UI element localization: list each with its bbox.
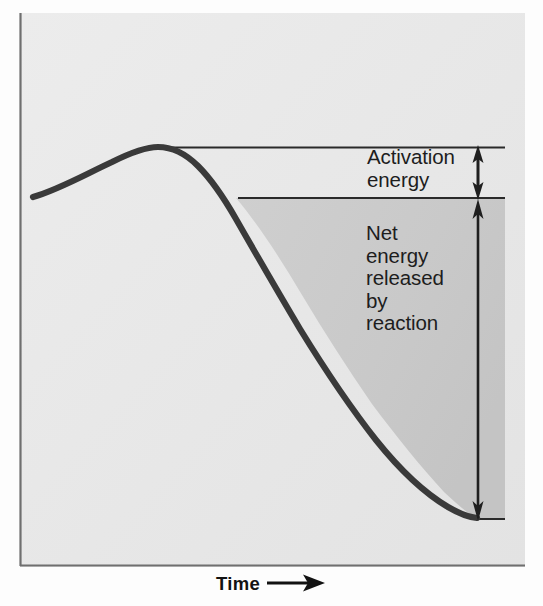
net-energy-released-label: Net energy released by reaction	[366, 222, 444, 335]
time-axis-label-group: Time	[0, 573, 543, 597]
reaction-energy-diagram: Activation energy Net energy released by…	[0, 0, 543, 606]
right-arrow-icon	[267, 574, 327, 597]
activation-energy-label: Activation energy	[367, 146, 455, 191]
energy-diagram-canvas	[0, 0, 543, 606]
time-axis-label-text: Time	[216, 573, 260, 594]
